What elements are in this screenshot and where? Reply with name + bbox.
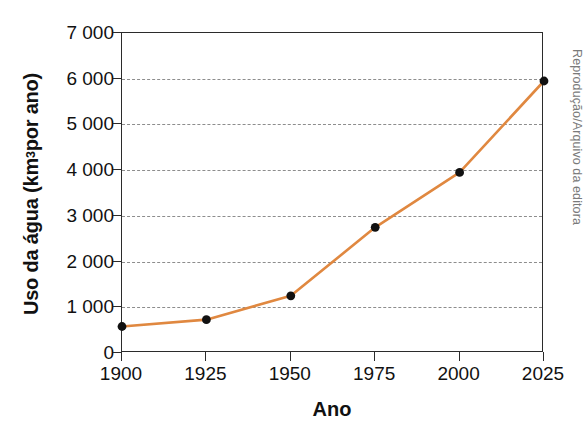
series-line: [122, 81, 544, 326]
x-axis-tick-label: 1975: [334, 364, 414, 383]
series-marker-group: [118, 77, 549, 331]
data-series-layer: [122, 33, 544, 353]
plot-area: [121, 32, 543, 352]
y-axis-title: Uso da água (km3 por ano): [18, 34, 44, 354]
y-axis-tick-label: 1 000: [52, 297, 114, 316]
y-axis-tick-label: 4 000: [52, 160, 114, 179]
data-point-marker: [455, 168, 464, 177]
data-point-marker: [118, 322, 127, 331]
y-axis-tick-label: 3 000: [52, 205, 114, 224]
data-point-marker: [202, 315, 211, 324]
x-axis-tick-label: 1900: [81, 364, 161, 383]
x-axis-tick-label: 1925: [165, 364, 245, 383]
x-axis-tick-mark: [459, 352, 460, 361]
x-axis-tick-mark: [290, 352, 291, 361]
x-axis-tick-label: 1950: [250, 364, 330, 383]
y-axis-title-suffix: por ano): [20, 73, 43, 151]
x-axis-tick-mark: [205, 352, 206, 361]
line-chart-figure: Uso da água (km3 por ano) 01 0002 0003 0…: [0, 0, 588, 431]
x-axis-tick-mark: [374, 352, 375, 361]
y-axis-tick-label-group: 01 0002 0003 0004 0005 0006 0007 000: [52, 32, 114, 352]
y-axis-tick-label: 6 000: [52, 68, 114, 87]
data-point-marker: [371, 223, 380, 232]
x-axis-title: Ano: [121, 398, 543, 421]
y-axis-tick-label: 7 000: [52, 23, 114, 42]
data-point-marker: [540, 77, 549, 86]
x-axis-tick-mark: [121, 352, 122, 361]
data-point-marker: [286, 291, 295, 300]
y-axis-tick-label: 0: [52, 343, 114, 362]
y-axis-title-prefix: Uso da água (km: [20, 158, 43, 315]
x-axis-tick-label: 2025: [503, 364, 583, 383]
x-axis-tick-mark: [543, 352, 544, 361]
x-axis-tick-label: 2000: [419, 364, 499, 383]
y-axis-tick-label: 5 000: [52, 114, 114, 133]
y-axis-tick-label: 2 000: [52, 251, 114, 270]
credit-text: Reprodução/Arquivo da editora: [568, 7, 586, 267]
